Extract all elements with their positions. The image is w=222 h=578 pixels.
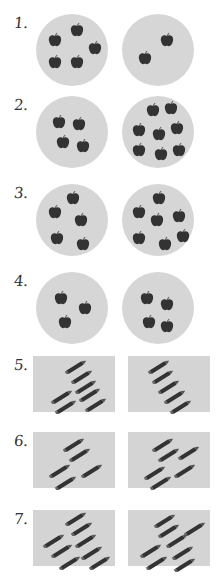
- apple-icon: [170, 120, 184, 135]
- pencil-icon: [79, 464, 105, 478]
- apple-icon: [70, 54, 84, 69]
- apple-icon: [176, 228, 190, 243]
- right-rect-group[interactable]: [128, 510, 210, 566]
- apple-icon: [48, 32, 62, 47]
- apple-icon: [150, 212, 164, 227]
- apple-icon: [132, 230, 146, 245]
- apple-icon: [160, 318, 174, 333]
- apple-icon: [48, 54, 62, 69]
- apple-icon: [132, 142, 146, 157]
- question-number: 4.: [13, 272, 29, 290]
- apple-icon: [172, 208, 186, 223]
- apple-icon: [78, 300, 92, 315]
- apple-icon: [158, 236, 172, 251]
- question-number: 5.: [13, 356, 29, 374]
- apple-icon: [48, 204, 62, 219]
- apple-icon: [66, 190, 80, 205]
- apple-icon: [72, 116, 86, 131]
- right-rect-group[interactable]: [128, 356, 210, 412]
- apple-icon: [140, 290, 154, 305]
- pencil-icon: [57, 556, 83, 570]
- apple-icon: [154, 146, 168, 161]
- pencil-icon: [83, 398, 109, 412]
- pencil-icon: [53, 400, 79, 414]
- question-number: 7.: [13, 510, 29, 528]
- apple-icon: [70, 22, 84, 37]
- pencil-icon: [172, 464, 198, 478]
- left-circle-group[interactable]: [36, 96, 108, 168]
- apple-icon: [172, 142, 186, 157]
- apple-icon: [50, 230, 64, 245]
- left-circle-group[interactable]: [36, 14, 108, 86]
- apple-icon: [160, 32, 174, 47]
- question-number: 6.: [13, 432, 29, 450]
- pencil-icon: [67, 448, 93, 462]
- apple-icon: [152, 126, 166, 141]
- apple-icon: [142, 314, 156, 329]
- question-number: 1.: [13, 14, 29, 32]
- left-rect-group[interactable]: [33, 356, 115, 412]
- pencil-icon: [148, 476, 174, 490]
- question-number: 2.: [13, 96, 29, 114]
- apple-icon: [56, 134, 70, 149]
- apple-icon: [160, 296, 174, 311]
- apple-icon: [76, 236, 90, 251]
- left-rect-group[interactable]: [33, 510, 115, 566]
- left-circle-group[interactable]: [36, 184, 108, 256]
- right-circle-group[interactable]: [122, 14, 194, 86]
- right-circle-group[interactable]: [122, 272, 194, 344]
- apple-icon: [138, 50, 152, 65]
- apple-icon: [88, 40, 102, 55]
- apple-icon: [132, 204, 146, 219]
- apple-icon: [58, 314, 72, 329]
- apple-icon: [152, 190, 166, 205]
- apple-icon: [132, 122, 146, 137]
- pencil-icon: [53, 476, 79, 490]
- pencil-icon: [144, 556, 170, 570]
- right-circle-group[interactable]: [122, 96, 194, 168]
- right-rect-group[interactable]: [128, 432, 210, 488]
- left-rect-group[interactable]: [33, 432, 115, 488]
- left-circle-group[interactable]: [36, 272, 108, 344]
- pencil-icon: [176, 446, 202, 460]
- question-number: 3.: [13, 184, 29, 202]
- apple-icon: [54, 290, 68, 305]
- pencil-icon: [172, 558, 198, 572]
- apple-icon: [146, 102, 160, 117]
- apple-icon: [52, 114, 66, 129]
- apple-icon: [74, 212, 88, 227]
- pencil-icon: [87, 556, 113, 570]
- pencil-icon: [168, 400, 194, 414]
- apple-icon: [76, 138, 90, 153]
- apple-icon: [164, 100, 178, 115]
- right-circle-group[interactable]: [122, 184, 194, 256]
